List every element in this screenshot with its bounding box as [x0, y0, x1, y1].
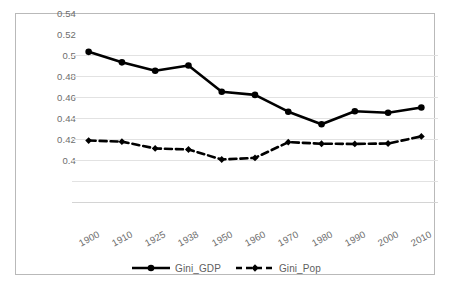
- plot-area: [72, 55, 438, 223]
- y-tick-label: 0.42: [31, 135, 76, 145]
- data-point-marker: [351, 141, 358, 148]
- data-point-marker: [152, 67, 159, 74]
- data-point-marker: [385, 140, 392, 147]
- data-point-marker: [85, 137, 92, 144]
- legend-entry-gini_gdp[interactable]: Gini_GDP: [131, 262, 221, 274]
- chart-legend: Gini_GDPGini_Pop: [16, 258, 436, 278]
- data-point-marker: [218, 156, 225, 163]
- data-point-marker: [352, 108, 359, 115]
- legend-swatch-icon: [235, 262, 275, 274]
- data-point-marker: [285, 108, 292, 115]
- y-tick-label: 0.54: [31, 9, 76, 19]
- legend-swatch-icon: [131, 262, 171, 274]
- series-layer: [72, 55, 438, 223]
- y-tick-label: 0.44: [31, 114, 76, 124]
- series-line-gini_gdp: [89, 52, 422, 124]
- legend-entry-gini_pop[interactable]: Gini_Pop: [235, 262, 321, 274]
- y-tick-label: 0.46: [31, 93, 76, 103]
- data-point-marker: [185, 62, 192, 69]
- data-point-marker: [185, 146, 192, 153]
- data-point-marker: [218, 88, 225, 95]
- legend-label: Gini_GDP: [175, 263, 221, 274]
- data-point-marker: [318, 121, 325, 128]
- data-point-marker: [119, 59, 126, 66]
- y-tick-label: 0.5: [31, 51, 76, 61]
- chart-frame: 0.540.520.50.480.460.440.420.4 190019101…: [15, 13, 435, 275]
- y-tick-label: 0.4: [31, 156, 76, 166]
- data-point-marker: [119, 138, 126, 145]
- data-point-marker: [385, 109, 392, 116]
- y-axis-tick-labels: 0.540.520.50.480.460.440.420.4: [31, 14, 76, 244]
- data-point-marker: [152, 145, 159, 152]
- data-point-marker: [318, 140, 325, 147]
- legend-label: Gini_Pop: [279, 263, 321, 274]
- y-tick-label: 0.48: [31, 72, 76, 82]
- x-axis-tick-labels: 1900191019251938195019601970198019902000…: [72, 225, 438, 259]
- data-point-marker: [252, 92, 259, 99]
- data-point-marker: [85, 49, 92, 56]
- y-tick-label: 0.52: [31, 30, 76, 40]
- data-point-marker: [418, 104, 425, 111]
- data-point-marker: [418, 133, 425, 140]
